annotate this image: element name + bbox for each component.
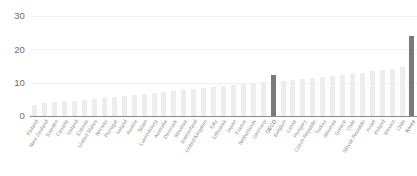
bar-slot [298, 16, 308, 116]
bar-slot [129, 16, 139, 116]
bar-slot [288, 16, 298, 116]
bar-slot [70, 16, 80, 116]
bar[interactable] [102, 98, 107, 116]
x-axis-labels: FinlandNew ZealandSwedenCanadaIcelandEst… [30, 118, 417, 176]
bar-slot [30, 16, 40, 116]
bar[interactable] [380, 70, 385, 116]
bar[interactable] [370, 71, 375, 116]
bar[interactable] [251, 83, 256, 116]
bar-slot [268, 16, 278, 116]
bar[interactable] [231, 85, 236, 116]
bar-slot [90, 16, 100, 116]
bar[interactable] [320, 77, 325, 116]
bar-slot [248, 16, 258, 116]
bar[interactable] [122, 96, 127, 116]
bar[interactable] [390, 69, 395, 116]
bar-slot [189, 16, 199, 116]
bar[interactable] [400, 67, 405, 116]
bar[interactable] [201, 88, 206, 116]
bar[interactable] [409, 36, 414, 116]
bar-slot [80, 16, 90, 116]
bar-slot [238, 16, 248, 116]
bar-slot [169, 16, 179, 116]
bar-slot [407, 16, 417, 116]
bar-slot [159, 16, 169, 116]
bar[interactable] [350, 74, 355, 116]
x-tick-label: Korea [405, 119, 417, 134]
bar-slot [258, 16, 268, 116]
bar-slot [179, 16, 189, 116]
bar[interactable] [330, 76, 335, 116]
bar-slot [318, 16, 328, 116]
bar-slot [308, 16, 318, 116]
x-label-slot: Korea [407, 118, 417, 176]
bar[interactable] [171, 91, 176, 116]
bar-slot [328, 16, 338, 116]
bar-slot [377, 16, 387, 116]
bar-slot [348, 16, 358, 116]
bar[interactable] [261, 82, 266, 116]
bar-slot [149, 16, 159, 116]
bar[interactable] [62, 101, 67, 116]
bar[interactable] [72, 101, 77, 116]
bar-slot [387, 16, 397, 116]
bar-slot [119, 16, 129, 116]
bar-slot [209, 16, 219, 116]
bar-slot [50, 16, 60, 116]
bar[interactable] [132, 95, 137, 116]
bar[interactable] [290, 80, 295, 116]
bar[interactable] [42, 103, 47, 116]
bar[interactable] [161, 92, 166, 116]
bar[interactable] [112, 97, 117, 116]
bar-slot [40, 16, 50, 116]
bar-slot [60, 16, 70, 116]
bar[interactable] [310, 78, 315, 116]
bar[interactable] [32, 105, 37, 116]
bar-slot [228, 16, 238, 116]
bar-slot [338, 16, 348, 116]
bar[interactable] [300, 79, 305, 116]
y-axis: 30 20 10 0 [0, 0, 30, 116]
bar-slot [139, 16, 149, 116]
bar[interactable] [221, 86, 226, 116]
y-tick-label-10: 10 [14, 78, 25, 88]
bar-series [30, 16, 417, 116]
bar[interactable] [181, 90, 186, 116]
bar-slot [278, 16, 288, 116]
bar[interactable] [92, 99, 97, 116]
x-axis-line [30, 116, 417, 117]
y-tick-label-20: 20 [14, 45, 25, 55]
bar-slot [357, 16, 367, 116]
bar-slot [199, 16, 209, 116]
bar-slot [367, 16, 377, 116]
bar-slot [397, 16, 407, 116]
bar[interactable] [241, 84, 246, 116]
bar[interactable] [360, 73, 365, 116]
bar[interactable] [211, 87, 216, 116]
bar[interactable] [142, 94, 147, 116]
plot-area [30, 16, 417, 116]
bar[interactable] [152, 93, 157, 116]
bar[interactable] [82, 100, 87, 116]
bar-chart: 30 20 10 0 FinlandNew ZealandSwedenCanad… [0, 0, 417, 176]
bar[interactable] [340, 75, 345, 116]
bar-slot [99, 16, 109, 116]
bar[interactable] [52, 102, 57, 116]
y-tick-label-30: 30 [14, 11, 25, 21]
y-tick-label-0: 0 [20, 111, 25, 121]
bar-slot [219, 16, 229, 116]
bar[interactable] [281, 81, 286, 116]
bar-slot [109, 16, 119, 116]
bar[interactable] [191, 89, 196, 116]
bar[interactable] [271, 75, 276, 116]
